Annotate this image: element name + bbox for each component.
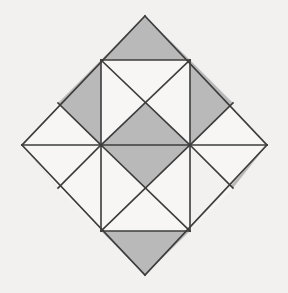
bottom-apex-triangle	[101, 231, 190, 275]
top-apex-triangle	[101, 16, 190, 60]
figure-container	[0, 0, 288, 293]
diamond-tiling-figure	[0, 0, 288, 293]
